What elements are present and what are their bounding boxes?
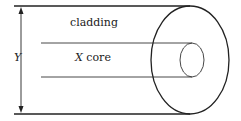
fiber-drawing — [0, 0, 241, 121]
arrow-up-icon — [19, 7, 24, 14]
arrow-down-icon — [19, 106, 24, 113]
core-variable: X — [75, 51, 83, 64]
cladding-label: cladding — [70, 16, 118, 29]
core-end-face — [180, 43, 204, 77]
dimension-label: Y — [14, 51, 21, 64]
cladding-end-face — [151, 6, 229, 114]
core-word: core — [83, 51, 111, 64]
core-label: X core — [75, 51, 111, 64]
fiber-diagram: cladding X core Y — [0, 0, 241, 121]
